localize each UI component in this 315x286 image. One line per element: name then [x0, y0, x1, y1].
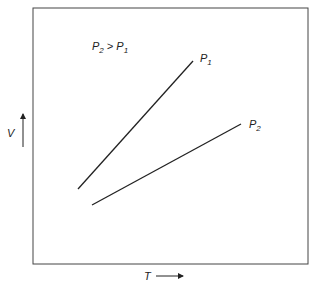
line-p1	[78, 61, 193, 189]
label-p2: P2	[249, 118, 261, 133]
x-axis-label: T	[144, 270, 152, 282]
annotation-text: P2 > P1	[92, 40, 128, 55]
label-p1: P1	[200, 52, 212, 67]
diagram: P2 > P1 P1 P2 V T	[0, 0, 315, 286]
plot-frame	[33, 8, 308, 264]
line-p2	[92, 124, 241, 205]
y-axis-label: V	[7, 127, 16, 139]
